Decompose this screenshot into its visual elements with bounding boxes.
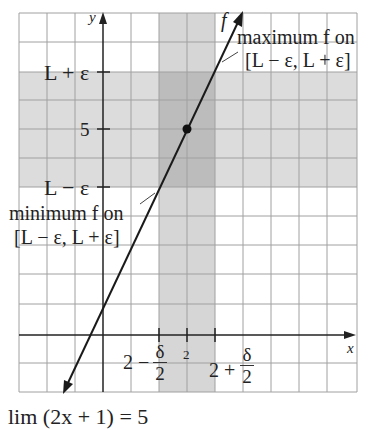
x-axis-label: x bbox=[347, 341, 354, 356]
two-den: 2 bbox=[242, 367, 252, 386]
y-axis-label: y bbox=[89, 10, 96, 25]
max-annotation-line2: [L − ε, L + ε] bbox=[245, 50, 351, 70]
x-tick-left-frac: δ 2 bbox=[153, 342, 167, 383]
y-tick-L-plus-eps: L + ε bbox=[44, 62, 89, 84]
delta-num: δ bbox=[156, 342, 165, 361]
y-tick-L-minus-eps: L − ε bbox=[44, 177, 89, 199]
caption-limit: lim (2x + 1) = 5 bbox=[8, 404, 148, 430]
function-label: f bbox=[221, 10, 227, 30]
two-den: 2 bbox=[155, 364, 165, 383]
x-tick-right-frac: δ 2 bbox=[240, 345, 254, 386]
min-annotation-line1: minimum f on bbox=[9, 203, 123, 223]
min-annotation-line2: [L − ε, L + ε] bbox=[14, 227, 120, 247]
x-tick-center: 2 bbox=[183, 348, 190, 361]
max-leader bbox=[222, 52, 238, 62]
point-2-5 bbox=[183, 125, 192, 134]
x-tick-right-prefix: 2 + bbox=[209, 360, 235, 380]
delta-num: δ bbox=[243, 345, 252, 364]
max-annotation-line1: maximum f on bbox=[237, 27, 355, 47]
y-tick-5: 5 bbox=[80, 120, 90, 139]
x-tick-left-prefix: 2 − bbox=[123, 352, 149, 372]
